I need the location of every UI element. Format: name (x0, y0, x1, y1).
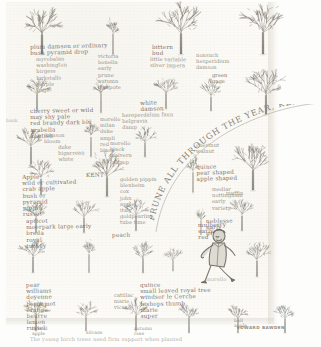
tree-drawing (244, 70, 288, 116)
handwritten-note: golden pippin blenheim cox john apple it… (120, 176, 157, 226)
handwritten-note: bank (6, 118, 18, 123)
handwritten-note: green gage (212, 72, 228, 84)
handwritten-note: little variable silver impera (150, 56, 186, 69)
tree-drawing (238, 4, 288, 56)
handwritten-note: muffin (226, 190, 243, 196)
handwritten-note: duke bigarreau white (58, 143, 85, 162)
handwritten-note: apricot moorpark large early breda royal… (26, 217, 92, 249)
handwritten-note: hereperdalum faun belgravia damp (122, 111, 174, 131)
handwritten-note: morello black malvern caltrop (110, 140, 132, 165)
handwritten-note: chestnut walnut (196, 142, 219, 154)
handwritten-note: plum damson or ordinary bush pyramid dro… (30, 42, 108, 56)
handwritten-note: pear williams doyenne bergamot orange be… (26, 281, 56, 331)
handwritten-note: KENT (86, 172, 104, 179)
handwritten-note: silvans (86, 330, 102, 335)
sketchbook-page: plum damson or ordinary bush pyramid dro… (0, 0, 321, 347)
handwritten-note: victoria bonella early prune autumn comp… (98, 53, 121, 90)
walking-man-figure (200, 228, 252, 288)
handwritten-note: nonsuch hesperidium damson (196, 52, 229, 71)
page-caption: The young birch trees need firm support … (30, 336, 182, 342)
tree-drawing (160, 246, 186, 272)
handwritten-note: damson bloom (44, 132, 65, 144)
handwritten-note: peach (112, 232, 130, 239)
artist-signature: EDWARD BAWDEN (237, 325, 285, 330)
handwritten-note: quince pear shaped apple shaped (196, 163, 237, 183)
handwritten-note: Apple wild or cultivated crab apple bush… (22, 173, 77, 218)
tree-drawing (230, 144, 276, 192)
tree-drawing (70, 300, 102, 332)
handwritten-note: bittern bud (152, 44, 173, 56)
handwritten-note: catillac marie vicar (114, 292, 134, 311)
handwritten-note: myrobalan washington birgess kirkstalls … (36, 55, 68, 93)
tree-drawing (126, 240, 160, 274)
